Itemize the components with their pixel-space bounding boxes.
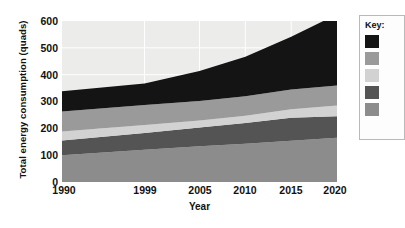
x-axis-title: Year xyxy=(62,201,337,212)
legend-swatch-4 xyxy=(365,86,379,99)
x-tick-1990: 1990 xyxy=(44,184,84,196)
legend-title: Key: xyxy=(365,20,404,31)
x-tick-2020: 2020 xyxy=(315,184,355,196)
y-tick-100: 100 xyxy=(24,149,58,161)
chart-legend: Key: xyxy=(359,15,405,140)
legend-swatch-3 xyxy=(365,69,379,82)
y-tick-200: 200 xyxy=(24,122,58,134)
y-tick-300: 300 xyxy=(24,95,58,107)
legend-swatch-1 xyxy=(365,35,379,48)
y-tick-500: 500 xyxy=(24,42,58,54)
area-chart-svg xyxy=(62,21,337,182)
plot-area xyxy=(62,21,337,182)
x-tick-2010: 2010 xyxy=(225,184,265,196)
legend-swatch-2 xyxy=(365,52,379,65)
y-tick-400: 400 xyxy=(24,69,58,81)
x-axis-tick-labels: 1990 1999 2005 2010 2015 2020 xyxy=(0,184,389,200)
y-tick-600: 600 xyxy=(24,15,58,27)
legend-swatch-list xyxy=(365,35,404,116)
x-tick-2005: 2005 xyxy=(180,184,220,196)
x-tick-1999: 1999 xyxy=(125,184,165,196)
legend-swatch-5 xyxy=(365,103,379,116)
x-tick-2015: 2015 xyxy=(271,184,311,196)
